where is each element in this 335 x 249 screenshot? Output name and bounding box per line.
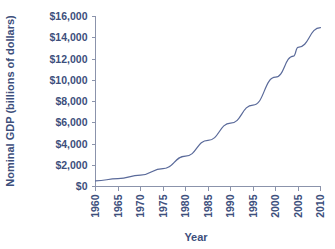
y-tick-label: $4,000 — [55, 138, 87, 150]
x-tick-label: 1965 — [112, 194, 124, 218]
x-tick-label: 1980 — [179, 194, 191, 218]
y-tick-label: $6,000 — [55, 116, 87, 128]
gdp-series-line — [96, 28, 321, 181]
y-tick-label: $12,000 — [50, 53, 88, 65]
x-tick-label: 2005 — [292, 194, 304, 218]
x-axis-tick-labels: 1960196519701975198019851990199520002005… — [89, 194, 326, 218]
y-tick-label: $2,000 — [55, 159, 87, 171]
chart-container: Nominal GDP (billions of dollars) Year $… — [0, 0, 335, 249]
x-tick-label: 1985 — [202, 194, 214, 218]
y-tick-label: $16,000 — [50, 10, 88, 22]
x-axis-title: Year — [184, 231, 208, 243]
y-axis-ticks — [92, 17, 96, 187]
x-tick-label: 1970 — [134, 194, 146, 218]
x-axis-ticks — [96, 187, 321, 191]
y-tick-label: $0 — [76, 180, 88, 192]
y-tick-label: $14,000 — [50, 31, 88, 43]
x-tick-label: 2010 — [314, 194, 326, 218]
gdp-line-chart: Nominal GDP (billions of dollars) Year $… — [0, 0, 335, 249]
y-tick-label: $8,000 — [55, 95, 87, 107]
y-axis-title: Nominal GDP (billions of dollars) — [4, 15, 16, 187]
y-tick-label: $10,000 — [50, 74, 88, 86]
x-tick-label: 2000 — [269, 194, 281, 218]
x-tick-label: 1995 — [247, 194, 259, 218]
x-tick-label: 1960 — [89, 194, 101, 218]
y-axis-tick-labels: $0$2,000$4,000$6,000$8,000$10,000$12,000… — [50, 10, 88, 192]
x-tick-label: 1990 — [224, 194, 236, 218]
x-tick-label: 1975 — [157, 194, 169, 218]
